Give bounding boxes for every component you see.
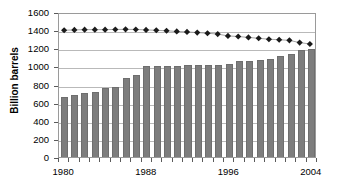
diamond-marker xyxy=(194,30,200,36)
x-axis-tick-mark xyxy=(275,158,276,162)
y-axis-tick-label: 200 xyxy=(9,135,49,144)
y-axis-tick-label: 1000 xyxy=(9,62,49,71)
diamond-marker xyxy=(215,31,221,37)
x-axis-tick-label: 1996 xyxy=(206,166,250,177)
y-axis-tick-label: 0 xyxy=(9,153,49,162)
x-axis-tick-mark xyxy=(285,158,286,162)
diamond-marker xyxy=(225,33,231,39)
diamond-marker xyxy=(256,35,262,41)
y-axis-tick-label: 400 xyxy=(9,117,49,126)
y-axis-tick-label: 800 xyxy=(9,81,49,90)
diamond-marker xyxy=(297,40,303,46)
diamond-marker xyxy=(82,27,88,33)
diamond-marker xyxy=(174,28,180,34)
x-axis-tick-mark xyxy=(120,158,121,162)
line-series xyxy=(59,14,315,157)
diamond-marker xyxy=(266,36,272,42)
diamond-marker xyxy=(112,26,118,32)
x-axis-tick-label: 1988 xyxy=(124,166,168,177)
x-axis-tick-mark xyxy=(295,158,296,162)
x-axis-tick-mark xyxy=(130,158,131,162)
x-axis-tick-mark xyxy=(79,158,80,162)
x-axis-tick-mark xyxy=(89,158,90,162)
x-axis-tick-mark xyxy=(172,158,173,162)
x-axis-tick-label: 1980 xyxy=(41,166,85,177)
x-axis-tick-mark xyxy=(223,158,224,162)
diamond-marker xyxy=(163,28,169,34)
x-axis-tick-label: 2004 xyxy=(289,166,333,177)
diamond-marker xyxy=(276,37,282,43)
x-axis-tick-mark xyxy=(233,158,234,162)
y-axis-tick-label: 1400 xyxy=(9,26,49,35)
x-axis-tick-mark xyxy=(99,158,100,162)
y-axis-tick-label: 600 xyxy=(9,99,49,108)
x-axis-tick-mark xyxy=(182,158,183,162)
diamond-marker xyxy=(286,37,292,43)
diamond-marker xyxy=(143,27,149,33)
x-axis-tick-mark xyxy=(316,158,317,162)
plot-area xyxy=(58,13,316,158)
x-axis-tick-mark xyxy=(161,158,162,162)
x-axis-tick-mark xyxy=(141,158,142,162)
diamond-marker xyxy=(122,26,128,32)
diamond-marker xyxy=(133,26,139,32)
diamond-marker xyxy=(61,27,67,33)
x-axis-tick-mark xyxy=(192,158,193,162)
x-axis-tick-mark xyxy=(213,158,214,162)
chart-container: Billion barrels 020040060080010001200140… xyxy=(0,0,340,190)
diamond-marker xyxy=(92,27,98,33)
diamond-marker xyxy=(307,41,313,47)
x-axis-tick-mark xyxy=(68,158,69,162)
x-axis-tick-mark xyxy=(202,158,203,162)
x-axis-tick-mark xyxy=(58,158,59,162)
x-axis-tick-mark xyxy=(151,158,152,162)
x-axis-tick-mark xyxy=(254,158,255,162)
diamond-marker xyxy=(184,29,190,35)
diamond-marker xyxy=(153,27,159,33)
diamond-marker xyxy=(102,27,108,33)
x-axis-tick-mark xyxy=(306,158,307,162)
diamond-marker xyxy=(71,27,77,33)
y-axis-tick-label: 1600 xyxy=(9,8,49,17)
y-axis-tick-label: 1200 xyxy=(9,44,49,53)
x-axis-tick-mark xyxy=(244,158,245,162)
x-axis-tick-mark xyxy=(110,158,111,162)
x-axis-tick-mark xyxy=(264,158,265,162)
diamond-marker xyxy=(235,33,241,39)
diamond-marker xyxy=(245,34,251,40)
diamond-marker xyxy=(204,30,210,36)
